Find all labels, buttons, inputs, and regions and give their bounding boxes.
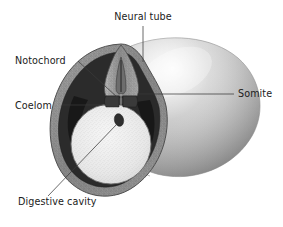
somite-structure-right	[123, 96, 138, 107]
label-coelom: Coelom	[15, 100, 52, 111]
somite-structure-left	[105, 96, 120, 107]
label-neural-tube: Neural tube	[114, 11, 172, 22]
label-notochord: Notochord	[15, 55, 66, 66]
label-somite: Somite	[238, 88, 272, 99]
label-digestive-cavity: Digestive cavity	[18, 196, 97, 207]
diagram-canvas: Neural tube Notochord Coelom Somite Dige…	[0, 0, 283, 227]
embryo-cross-section-figure: Neural tube Notochord Coelom Somite Dige…	[0, 0, 283, 227]
